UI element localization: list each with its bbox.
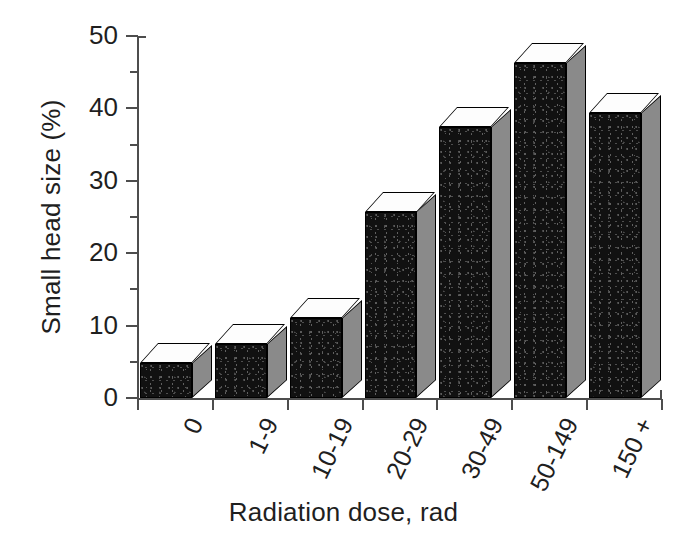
- x-axis-title: Radiation dose, rad: [0, 497, 687, 528]
- y-axis-minor-tick: [130, 216, 138, 218]
- bar: [439, 107, 511, 398]
- y-axis-major-tick: [126, 325, 138, 327]
- y-axis-line: [137, 36, 139, 400]
- x-axis-tick: [137, 399, 139, 410]
- bar: [514, 43, 586, 398]
- y-axis-minor-tick: [130, 144, 138, 146]
- y-axis-tick-label: 10: [62, 312, 118, 338]
- x-axis-line: [137, 398, 662, 400]
- y-axis-tick-label: 20: [62, 239, 118, 265]
- y-axis-minor-tick: [130, 71, 138, 73]
- x-axis-tick: [436, 399, 438, 410]
- bar-front-face: [215, 344, 267, 398]
- y-axis-tick-label: 40: [62, 94, 118, 120]
- bar: [215, 324, 287, 398]
- x-axis-tick: [362, 399, 364, 410]
- y-axis-minor-tick: [130, 288, 138, 290]
- y-axis-major-tick: [126, 252, 138, 254]
- y-axis-major-tick: [126, 107, 138, 109]
- bar-front-face: [439, 127, 491, 398]
- x-axis-tick: [212, 399, 214, 410]
- x-axis-tick: [511, 399, 513, 410]
- bar-side-face: [641, 95, 661, 398]
- x-axis-tick: [661, 399, 663, 410]
- y-axis-major-tick: [126, 180, 138, 182]
- bar-chart-figure: Small head size (%) 01020304050 01-910-1…: [0, 0, 687, 548]
- x-axis-tick: [287, 399, 289, 410]
- x-axis-tick: [586, 399, 588, 410]
- y-axis-minor-tick: [130, 361, 138, 363]
- y-axis-tick-label: 30: [62, 167, 118, 193]
- y-axis-tick-label: 50: [62, 22, 118, 48]
- bar: [290, 298, 362, 398]
- bar-front-face: [365, 212, 417, 398]
- y-axis-top-cap: [137, 36, 146, 38]
- bar-front-face: [589, 113, 641, 398]
- bar-side-face: [566, 45, 586, 398]
- bar-front-face: [290, 318, 342, 398]
- bar-front-face: [514, 63, 566, 398]
- bar: [140, 343, 212, 398]
- bar: [589, 93, 661, 398]
- bar: [365, 192, 437, 398]
- y-axis-major-tick: [126, 35, 138, 37]
- y-axis-tick-label: 0: [62, 384, 118, 410]
- bar-front-face: [140, 363, 192, 398]
- y-axis-title: Small head size (%): [34, 36, 68, 398]
- bar-side-face: [416, 194, 436, 398]
- bar-side-face: [491, 109, 511, 398]
